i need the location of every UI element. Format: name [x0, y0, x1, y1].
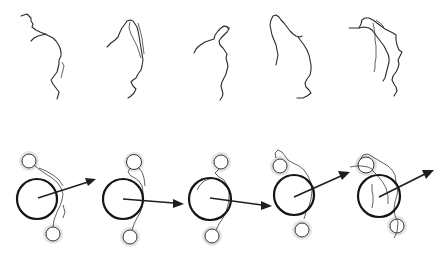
small-circle-upper-1	[22, 154, 36, 168]
arrowhead-icon	[173, 199, 184, 208]
arrowhead-icon	[85, 178, 96, 186]
contour-trace-4	[270, 15, 311, 98]
contour-trace-1	[21, 14, 64, 99]
top-row	[21, 14, 402, 100]
large-circle-5	[358, 175, 400, 217]
direction-arrow-5	[379, 174, 425, 197]
large-circle-4	[274, 175, 314, 215]
large-circle-1	[17, 179, 57, 219]
circle-diagram-2	[103, 152, 184, 247]
circle-diagram-3	[189, 152, 272, 246]
large-circle-3	[189, 178, 231, 220]
small-circle-lower-1	[46, 227, 60, 241]
small-circle-upper-4	[273, 159, 287, 173]
contour-trace-3	[194, 26, 230, 100]
bottom-row	[17, 150, 434, 247]
small-circle-upper-3	[214, 155, 228, 169]
arrowhead-icon	[261, 201, 272, 210]
figure-canvas	[0, 0, 448, 256]
circle-diagram-5	[350, 154, 434, 238]
circle-diagram-4	[270, 150, 350, 240]
circle-diagram-1	[17, 151, 96, 244]
small-circle-lower-3	[205, 229, 219, 243]
arrowhead-icon	[338, 171, 350, 180]
direction-arrow-3	[210, 198, 262, 205]
small-circle-upper-2	[127, 155, 142, 170]
contour-trace-5	[349, 18, 402, 96]
direction-arrow-4	[294, 176, 341, 197]
contour-trace-2	[107, 20, 144, 98]
small-circle-lower-4	[295, 223, 309, 237]
figure-svg	[0, 0, 448, 256]
small-circle-lower-2	[123, 230, 137, 244]
direction-arrow-2	[123, 199, 174, 203]
